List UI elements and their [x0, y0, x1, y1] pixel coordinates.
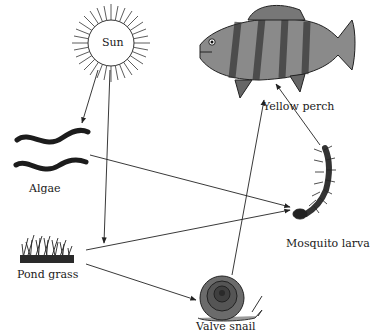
label-valve-snail: Valve snail [196, 320, 256, 333]
valve-snail-icon [198, 276, 262, 321]
label-yellow-perch: Yellow perch [263, 100, 334, 113]
label-pond-grass: Pond grass [17, 268, 78, 281]
arrow-mosquito-larva-to-yellow-perch [276, 84, 320, 145]
label-sun: Sun [102, 36, 124, 49]
label-algae: Algae [29, 182, 61, 195]
arrow-sun-to-pond-grass [104, 70, 110, 243]
arrow-pond-grass-to-mosquito-larva [86, 210, 290, 250]
arrow-pond-grass-to-valve-snail [86, 264, 196, 300]
arrow-valve-snail-to-yellow-perch [232, 100, 264, 275]
algae-icon [16, 130, 88, 169]
arrow-algae-to-mosquito-larva [90, 155, 290, 207]
yellow-perch-icon [200, 5, 355, 98]
pond-grass-icon [20, 235, 74, 263]
arrow-sun-to-algae [82, 70, 98, 123]
label-mosquito-larva: Mosquito larva [286, 237, 370, 250]
mosquito-larva-icon [293, 146, 336, 219]
